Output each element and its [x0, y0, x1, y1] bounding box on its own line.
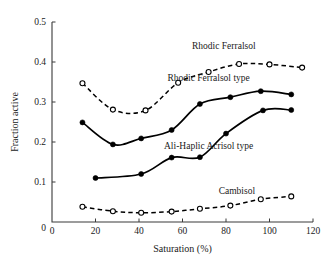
x-tick-label: 0	[50, 226, 55, 236]
x-tick-label: 40	[134, 226, 144, 236]
series-annotation-label: Rhodic Ferralsol type	[167, 73, 249, 83]
series-labels-group: Rhodic FerralsolRhodic Ferralsol typeAli…	[164, 41, 256, 196]
data-point-marker	[289, 92, 294, 97]
series-annotation-label: Cambisol	[219, 186, 256, 196]
data-point-marker	[258, 197, 263, 202]
data-point-marker	[80, 120, 85, 125]
series-annotation-label: Ali-Haplic Acrisol type	[164, 141, 253, 151]
y-tick-label: 0.5	[34, 17, 46, 27]
chart-canvas: 02040608010012000.10.20.30.40.5 Rhodic F…	[0, 0, 325, 273]
data-point-marker	[289, 194, 294, 199]
tick-marks-group	[52, 22, 313, 222]
y-tick-label: 0.1	[34, 177, 46, 187]
data-point-marker	[169, 155, 174, 160]
y-tick-label: 0.4	[34, 57, 46, 67]
data-point-marker	[267, 62, 272, 67]
data-point-marker	[197, 206, 202, 211]
y-tick-label: 0	[41, 223, 46, 233]
axis-spines	[52, 22, 313, 222]
data-point-marker	[139, 172, 144, 177]
series-curve	[82, 91, 291, 145]
axes-group	[52, 22, 313, 222]
series-markers-group	[80, 62, 305, 216]
data-point-marker	[260, 108, 265, 113]
data-point-marker	[139, 136, 144, 141]
data-point-marker	[258, 89, 263, 94]
x-tick-label: 120	[306, 226, 321, 236]
data-point-marker	[169, 209, 174, 214]
data-point-marker	[110, 142, 115, 147]
data-point-marker	[237, 62, 242, 67]
series-curves-group	[82, 63, 302, 212]
data-point-marker	[300, 65, 305, 70]
data-point-marker	[224, 131, 229, 136]
x-tick-label: 80	[221, 226, 231, 236]
data-point-marker	[110, 107, 115, 112]
x-tick-label: 100	[262, 226, 277, 236]
data-point-marker	[197, 155, 202, 160]
y-tick-label: 0.3	[34, 97, 46, 107]
y-tick-label: 0.2	[34, 137, 46, 147]
data-point-marker	[80, 81, 85, 86]
data-point-marker	[80, 204, 85, 209]
data-point-marker	[289, 108, 294, 113]
series-annotation-label: Rhodic Ferralsol	[192, 41, 256, 51]
data-point-marker	[228, 203, 233, 208]
data-point-marker	[139, 210, 144, 215]
data-point-marker	[93, 176, 98, 181]
data-point-marker	[143, 108, 148, 113]
y-axis-title: Fraction active	[9, 92, 20, 152]
chart-figure: 02040608010012000.10.20.30.40.5 Rhodic F…	[0, 0, 325, 273]
x-tick-label: 20	[91, 226, 101, 236]
series-curve	[82, 63, 302, 113]
data-point-marker	[110, 209, 115, 214]
x-axis-title: Saturation (%)	[153, 243, 212, 255]
data-point-marker	[169, 128, 174, 133]
data-point-marker	[197, 102, 202, 107]
data-point-marker	[228, 95, 233, 100]
x-tick-label: 60	[178, 226, 188, 236]
